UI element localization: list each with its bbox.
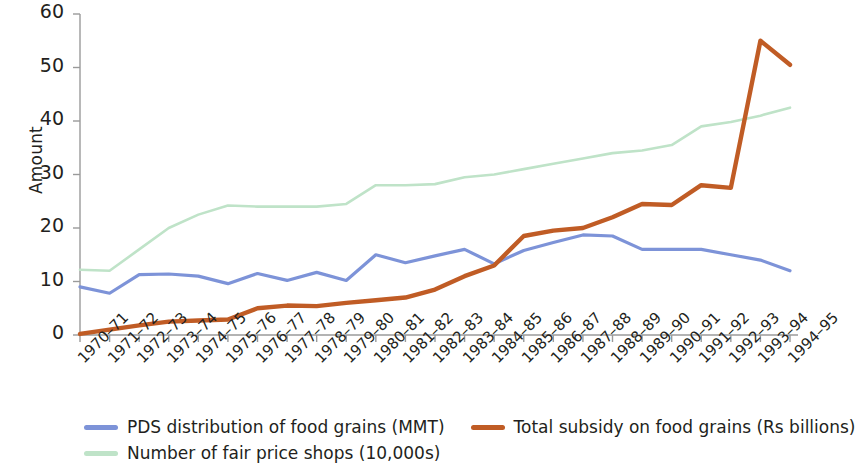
legend-row-secondary: Number of fair price shops (10,000s) [84,440,812,466]
legend-label: Number of fair price shops (10,000s) [127,443,440,463]
legend-swatch-icon [471,425,505,430]
legend-label: PDS distribution of food grains (MMT) [127,417,445,437]
legend-entry-shops[interactable]: Number of fair price shops (10,000s) [84,443,440,463]
legend-swatch-icon [84,451,118,456]
legend-entry-subsidy[interactable]: Total subsidy on food grains (Rs billion… [471,417,855,437]
legend-row-primary: PDS distribution of food grains (MMT) To… [84,414,812,440]
chart-legend: PDS distribution of food grains (MMT) To… [84,414,812,472]
legend-swatch-icon [84,425,118,430]
legend-label: Total subsidy on food grains (Rs billion… [514,417,855,437]
legend-entry-pds[interactable]: PDS distribution of food grains (MMT) [84,417,445,437]
